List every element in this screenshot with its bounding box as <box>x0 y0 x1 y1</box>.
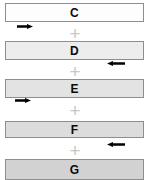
band-bar-label: C <box>70 7 79 19</box>
plus-icon: + <box>67 101 83 120</box>
band-bar-label: D <box>70 45 79 57</box>
band-bar: G <box>5 159 144 180</box>
band-bar: F <box>5 121 144 138</box>
plus-icon: + <box>67 141 83 160</box>
band-bar: C <box>5 3 144 22</box>
band-bar-label: F <box>71 124 79 136</box>
plus-icon: + <box>67 62 83 81</box>
arrow-left-icon <box>107 142 125 147</box>
arrow-left-icon <box>107 61 125 66</box>
arrow-right-icon <box>15 98 31 103</box>
plus-icon: + <box>67 24 83 43</box>
diagram-canvas: CDEFG++++ <box>0 0 152 180</box>
arrow-right-icon <box>17 24 33 29</box>
band-bar-label: G <box>70 164 80 176</box>
band-bar-label: E <box>70 83 78 95</box>
